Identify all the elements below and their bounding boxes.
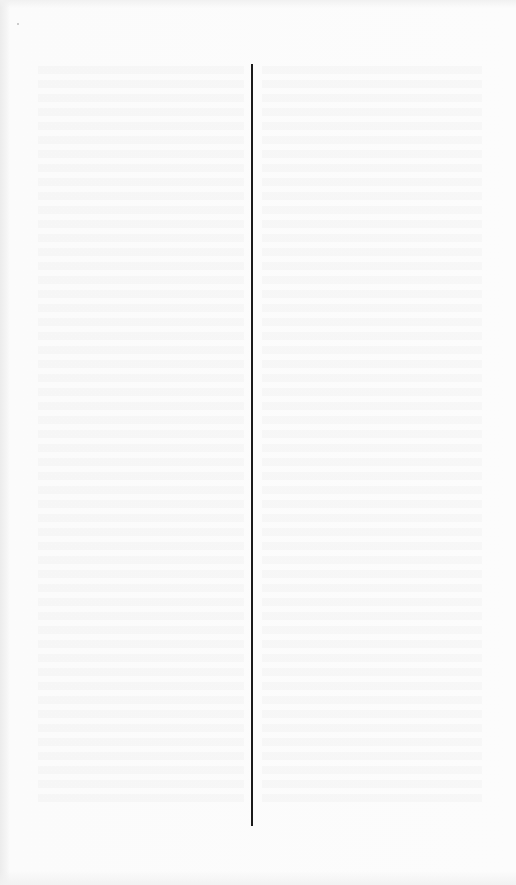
page-top-edge [0,0,516,8]
bleed-through-text-left-column [38,66,244,806]
scanned-page [0,0,516,885]
page-bottom-edge [0,871,516,885]
column-divider-rule [251,64,253,826]
scan-speck [17,23,19,25]
bleed-through-text-right-column [262,66,482,806]
